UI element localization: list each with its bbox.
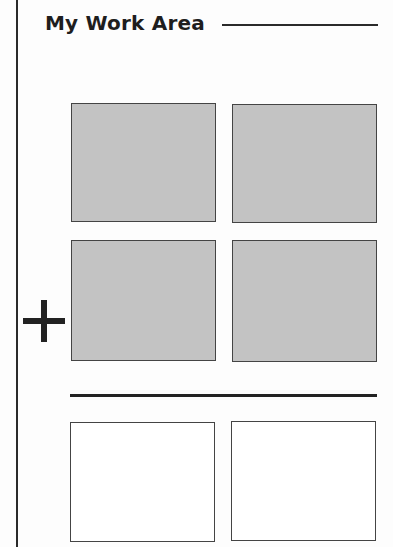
page-title: My Work Area bbox=[45, 11, 205, 35]
plus-icon bbox=[23, 300, 65, 342]
addend-1-ones-box[interactable] bbox=[232, 104, 377, 223]
plus-icon-vertical bbox=[41, 300, 47, 342]
addend-2-tens-box[interactable] bbox=[71, 240, 216, 361]
sum-divider-line bbox=[70, 394, 377, 397]
margin-line bbox=[16, 0, 18, 547]
answer-tens-box[interactable] bbox=[70, 422, 215, 542]
addend-2-ones-box[interactable] bbox=[232, 240, 377, 362]
title-rule bbox=[222, 24, 378, 26]
addend-1-tens-box[interactable] bbox=[71, 103, 216, 222]
worksheet-page: My Work Area bbox=[0, 0, 393, 547]
answer-ones-box[interactable] bbox=[231, 421, 376, 541]
